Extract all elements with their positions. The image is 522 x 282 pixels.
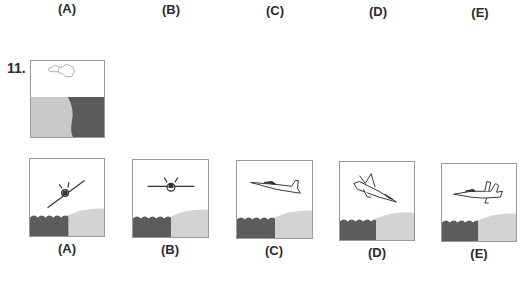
prompt-image xyxy=(30,60,105,138)
option-b-image[interactable] xyxy=(132,159,209,238)
top-label-d: (D) xyxy=(358,4,398,19)
option-c-image[interactable] xyxy=(236,160,313,239)
top-label-e: (E) xyxy=(460,5,500,20)
option-c-label: (C) xyxy=(254,243,294,258)
top-label-a: (A) xyxy=(47,1,87,16)
option-a-label: (A) xyxy=(47,241,87,256)
option-e-label: (E) xyxy=(459,246,499,261)
top-label-b: (B) xyxy=(151,2,191,17)
option-d-image[interactable] xyxy=(339,161,415,241)
water-region xyxy=(68,97,104,137)
option-d-label: (D) xyxy=(357,245,397,260)
top-label-c: (C) xyxy=(255,3,295,18)
option-b-label: (B) xyxy=(150,242,190,257)
question-number: 11. xyxy=(7,60,26,76)
option-e-image[interactable] xyxy=(441,163,517,242)
option-a-image[interactable] xyxy=(29,158,105,237)
sand-region xyxy=(31,97,75,137)
